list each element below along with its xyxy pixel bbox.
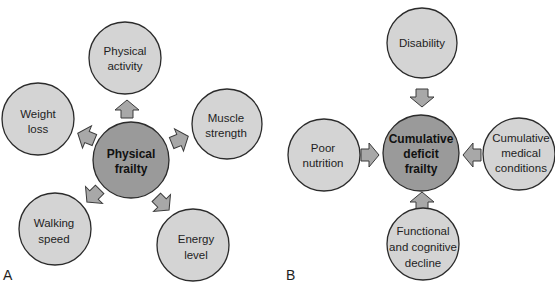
node-label: Energy — [178, 233, 215, 245]
node-label: nutrition — [303, 157, 344, 169]
arrow-from-cumulative-medical-conditions — [463, 143, 481, 167]
node-poor-nutrition: Poor nutrition — [288, 119, 360, 191]
node-walking-speed: Walking speed — [19, 193, 91, 265]
node-weight-loss: Weight loss — [2, 83, 74, 155]
center-label: Physical — [107, 147, 156, 161]
center-label: Cumulative — [389, 132, 454, 146]
center-label: deficit — [403, 147, 438, 161]
arrow-from-poor-nutrition — [361, 143, 379, 167]
node-physical-activity: Physical activity — [89, 22, 161, 94]
node-energy-level: Energy level — [157, 209, 229, 281]
panel-letter-b: B — [286, 267, 295, 283]
panel-letter-a: A — [3, 267, 13, 283]
center-node-cumulative-deficit-frailty: Cumulative deficit frailty — [383, 115, 459, 191]
node-label: Weight — [20, 108, 56, 120]
node-label: loss — [28, 123, 49, 135]
node-disability: Disability — [387, 8, 457, 78]
node-label: Muscle — [208, 112, 244, 124]
node-label: Physical — [104, 45, 147, 57]
node-label: level — [184, 249, 208, 261]
node-muscle-strength: Muscle strength — [192, 89, 262, 159]
node-label: conditions — [495, 162, 547, 174]
node-label: decline — [405, 257, 441, 269]
node-label: Poor — [311, 142, 335, 154]
arrow-from-disability — [410, 89, 434, 107]
node-label: and cognitive — [389, 241, 457, 253]
arrow-to-muscle-strength — [167, 125, 193, 154]
node-label: Functional — [396, 225, 449, 237]
node-label: Disability — [399, 37, 445, 49]
arrow-to-energy-level — [148, 189, 178, 219]
node-label: strength — [205, 127, 247, 139]
panel-a: Physical activity Weight loss Muscle str… — [2, 22, 262, 283]
center-label: frailty — [405, 162, 438, 176]
center-label: frailty — [115, 162, 148, 176]
node-label: Walking — [34, 217, 74, 229]
node-label: Cumulative — [492, 132, 550, 144]
node-label: activity — [107, 60, 142, 72]
frailty-diagram: Physical activity Weight loss Muscle str… — [0, 0, 555, 289]
arrow-from-functional-cognitive-decline — [410, 192, 434, 210]
node-cumulative-medical-conditions: Cumulative medical conditions — [483, 118, 555, 190]
panel-b: Disability Poor nutrition Cumulative med… — [286, 8, 555, 283]
center-node-physical-frailty: Physical frailty — [93, 122, 169, 198]
node-functional-cognitive-decline: Functional and cognitive decline — [387, 208, 459, 280]
node-label: speed — [38, 233, 69, 245]
arrow-to-physical-activity — [115, 100, 139, 118]
node-label: medical — [501, 147, 541, 159]
